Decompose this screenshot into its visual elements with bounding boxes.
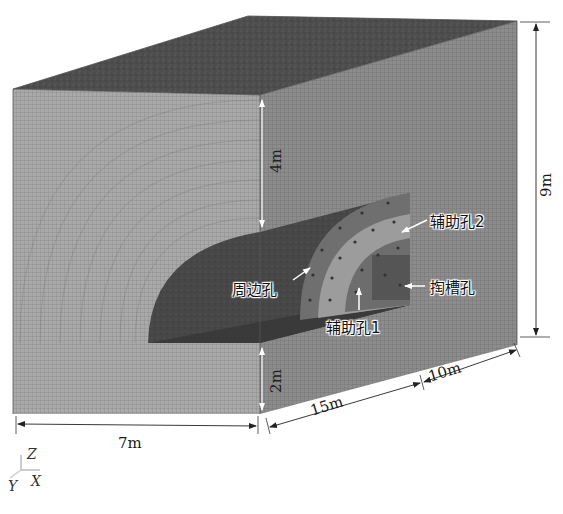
label-auxiliary-holes-2: 辅助孔2 [430,210,485,231]
dim-2m-label: 2m [267,369,285,393]
label-cut-holes: 掏槽孔 [430,276,475,297]
dim-9m-label: 9m [537,173,555,197]
dim-7m [16,416,258,434]
axis-y-label: Y [8,478,17,494]
tunnel-model-diagram [0,0,563,514]
dim-7m-label: 7m [118,434,142,452]
dim-4m-label: 4m [267,149,285,173]
label-auxiliary-holes-1: 辅助孔1 [326,316,381,337]
axis-x-label: X [31,473,41,489]
label-perimeter-holes: 周边孔 [232,278,277,299]
cut-hole-area [372,255,410,300]
axis-z-label: Z [27,446,37,462]
